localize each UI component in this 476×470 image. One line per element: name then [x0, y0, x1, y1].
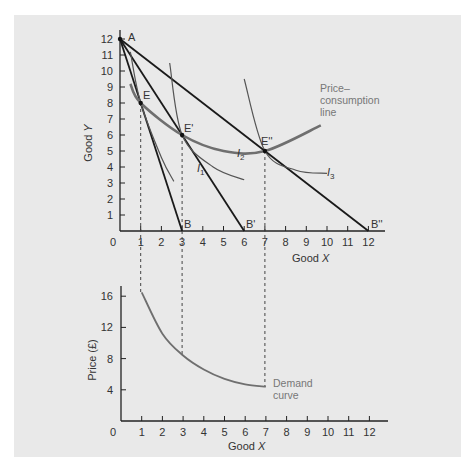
- indifference-curve-i1: [130, 52, 173, 182]
- indifference-label-2: I2: [237, 147, 245, 162]
- price-consumption-label: line: [320, 106, 337, 118]
- point-label-e: E: [143, 89, 150, 101]
- bottom-ticks: 4812160123456789101112: [101, 290, 376, 438]
- indifference-label-3: I3: [327, 166, 335, 181]
- y-tick-label: 6: [107, 129, 113, 141]
- point-label-b: B: [184, 218, 191, 230]
- equilibrium-point: [139, 101, 143, 105]
- x-tick-label: 10: [322, 426, 334, 438]
- bottom-axes: [121, 286, 388, 421]
- x-tick-label: 7: [263, 426, 269, 438]
- y-tick-label: 4: [107, 161, 113, 173]
- point-label-b-prime: B': [246, 218, 255, 230]
- x-tick-label: 5: [221, 426, 227, 438]
- x-tick-label: 5: [220, 236, 226, 248]
- bottom-curves: [142, 292, 266, 386]
- x-tick-label: 10: [321, 236, 333, 248]
- equilibrium-point: [118, 37, 122, 41]
- x-tick-label: 2: [158, 236, 164, 248]
- price-consumption-line: [130, 84, 320, 154]
- x-tick-label: 1: [139, 426, 145, 438]
- top-labels: Good XGood YAEE'E''BB'B''I1I2I3Price–con…: [82, 31, 383, 264]
- x-axis-title: Good X: [228, 440, 266, 452]
- x-tick-label: 8: [283, 236, 289, 248]
- y-tick-label: 2: [107, 193, 113, 205]
- y-tick-label: 10: [101, 65, 113, 77]
- top-curves: [118, 37, 369, 231]
- y-tick-label: 12: [101, 321, 113, 333]
- bottom-chart: 4812160123456789101112 Good XPrice (£)De…: [86, 286, 388, 452]
- y-tick-label: 5: [107, 145, 113, 157]
- y-tick-label: 12: [101, 33, 113, 45]
- y-tick-label: 1: [107, 209, 113, 221]
- x-tick-label: 4: [200, 236, 206, 248]
- demand-curve-label: Demand: [273, 377, 313, 389]
- y-tick-label: 3: [107, 177, 113, 189]
- indifference-curve-i2: [170, 63, 245, 180]
- x-tick-label: 4: [201, 426, 207, 438]
- demand-curve-label: curve: [273, 389, 299, 401]
- x-tick-label: 12: [363, 426, 375, 438]
- x-axis-title: Good X: [292, 252, 330, 264]
- top-ticks: 1234567891011120123456789101112: [101, 33, 375, 248]
- x-tick-label: 3: [180, 426, 186, 438]
- x-tick-label: 8: [284, 426, 290, 438]
- y-tick-label: 16: [101, 290, 113, 302]
- x-tick-label: 12: [362, 236, 374, 248]
- demand-curve: [142, 292, 266, 386]
- x-tick-label: 9: [303, 236, 309, 248]
- bottom-labels: Good XPrice (£)Demandcurve: [86, 339, 313, 452]
- x-tick-label: 9: [304, 426, 310, 438]
- point-label-e-prime: E': [184, 122, 193, 134]
- top-axes: [120, 30, 385, 231]
- x-tick-label: 2: [159, 426, 165, 438]
- equilibrium-point: [263, 149, 267, 153]
- y-tick-label: 8: [107, 97, 113, 109]
- y-tick-label: 4: [107, 384, 113, 396]
- x-tick-label: 6: [241, 236, 247, 248]
- x-tick-label: 11: [343, 426, 354, 438]
- x-tick-label: 11: [342, 236, 353, 248]
- x-tick-label: 0: [110, 236, 116, 248]
- top-chart: 1234567891011120123456789101112 Good XGo…: [82, 30, 385, 387]
- y-axis-title: Price (£): [86, 339, 98, 381]
- budget-line: [120, 39, 182, 231]
- price-consumption-label: consumption: [320, 94, 380, 106]
- x-tick-label: 6: [242, 426, 248, 438]
- point-label-e-double-prime: E'': [261, 135, 273, 147]
- x-tick-label: 0: [110, 426, 116, 438]
- price-consumption-label: Price–: [320, 82, 350, 94]
- y-tick-label: 7: [107, 113, 113, 125]
- y-axis-title: Good Y: [82, 124, 94, 162]
- chart-canvas: 1234567891011120123456789101112 Good XGo…: [0, 0, 476, 470]
- indifference-curve-i3: [244, 79, 327, 173]
- budget-line: [120, 39, 368, 231]
- y-tick-label: 9: [107, 81, 113, 93]
- y-tick-label: 8: [107, 353, 113, 365]
- point-label-b-double-prime: B'': [371, 218, 383, 230]
- y-tick-label: 11: [102, 49, 113, 61]
- point-label-a: A: [128, 31, 136, 43]
